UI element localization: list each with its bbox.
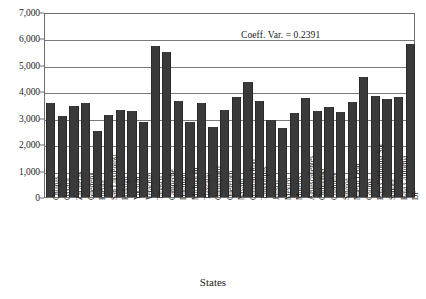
x-axis-tick-label: San Luis Potosí <box>111 154 119 200</box>
x-axis-tick-label: Tabasco <box>157 176 165 200</box>
x-axis-tick-label: Veracruz <box>146 174 154 200</box>
x-axis-tick-label: Sonora <box>389 179 397 200</box>
x-axis-tick-label: Campeche <box>169 169 177 200</box>
x-axis-tick-label: Nayarit <box>238 178 246 200</box>
x-axis-tick-label: Aguascalientes <box>308 156 316 200</box>
x-axis-tick-label: Hidalgo <box>122 177 130 200</box>
x-axis-tick-label: México <box>285 178 293 200</box>
x-axis-tick-label: Sinaloa <box>343 178 351 200</box>
x-axis-tick-label: Quintana Roo <box>250 159 258 200</box>
y-axis-tick-label: 2,000 <box>0 140 40 150</box>
x-axis-tick-label: Yucatán <box>134 177 142 200</box>
chart-figure: 01,0002,0003,0004,0005,0006,0007,000 Coe… <box>0 0 426 299</box>
x-axis-tick-label: DF <box>412 191 420 200</box>
x-axis-tick-label: Michoacán <box>192 168 200 200</box>
x-axis-tick-label: Oaxaca <box>64 178 72 200</box>
x-axis-title: States <box>0 275 426 289</box>
x-axis-tick-label: Guerrero <box>88 174 96 200</box>
x-axis-tick-label: Puebla <box>99 180 107 200</box>
x-axis-tick-label: Coahuila <box>331 174 339 200</box>
x-axis-tick-label: Nuevo León <box>354 164 362 200</box>
y-axis-tick-label: 5,000 <box>0 61 40 71</box>
y-axis: 01,0002,0003,0004,0005,0006,0007,000 <box>0 13 40 198</box>
x-axis-tick-label: Chihuahua <box>319 168 327 200</box>
x-axis-tick-label: Tlaxcala <box>204 175 212 200</box>
x-axis-tick-label: Chiapas <box>53 177 61 200</box>
y-axis-tick-label: 1,000 <box>0 167 40 177</box>
y-axis-tick-label: 3,000 <box>0 114 40 124</box>
coefficient-of-variation-annotation: Coeff. Var. = 0.2391 <box>241 29 320 41</box>
y-axis-tick-label: 7,000 <box>0 8 40 18</box>
x-axis-tick-label: Colima <box>366 179 374 200</box>
x-axis-tick-label: Tamaulipas <box>261 167 269 200</box>
y-axis-tick-label: 4,000 <box>0 87 40 97</box>
x-axis-tick-label: Zacatecas <box>76 171 84 200</box>
x-axis-tick-label: Querétaro <box>227 171 235 200</box>
y-axis-tick-label: 6,000 <box>0 34 40 44</box>
x-axis-tick-label: Guanajuato <box>215 166 223 200</box>
x-axis-tick-label: Baja California Sur <box>377 143 385 200</box>
x-axis-tick-label: Baja California <box>401 155 409 200</box>
x-axis-tick-label: Durango <box>180 174 188 200</box>
x-axis-tick-label: Jalisco <box>273 180 281 200</box>
y-axis-tick-label: 0 <box>0 193 40 203</box>
x-axis-tick-label: Morelos <box>296 176 304 200</box>
x-axis-tick-labels: ChiapasOaxacaZacatecasGuerreroPueblaSan … <box>44 200 415 270</box>
